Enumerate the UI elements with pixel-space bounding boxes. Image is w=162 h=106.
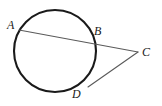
point-label-d: D <box>72 88 81 100</box>
secant-line-ac <box>19 30 138 52</box>
circle-shape <box>14 10 96 92</box>
geometry-figure: A B C D <box>0 0 162 106</box>
point-label-a: A <box>7 19 14 31</box>
point-label-c: C <box>142 46 150 58</box>
geometry-canvas <box>0 0 162 106</box>
point-label-b: B <box>94 25 101 37</box>
